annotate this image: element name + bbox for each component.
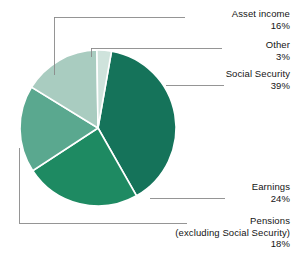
pie-label-pensions-value: 18% (175, 238, 290, 250)
pie-label-earnings-value: 24% (252, 193, 290, 205)
pie-label-other-text: Other (266, 39, 290, 51)
pie-label-asset-income-text: Asset income (232, 8, 290, 20)
pie-label-pensions: Pensions (excluding Social Security) 18% (175, 215, 290, 250)
pie-label-asset-income: Asset income 16% (232, 8, 290, 31)
pie-label-social-security: Social Security 39% (226, 68, 290, 91)
pie-label-other: Other 3% (266, 39, 290, 62)
pie-label-other-value: 3% (266, 51, 290, 63)
pie-label-earnings-text: Earnings (252, 181, 290, 193)
pie-label-pensions-sublabel: (excluding Social Security) (175, 227, 290, 239)
pie-slices (20, 50, 176, 206)
pie-label-social-security-value: 39% (226, 80, 290, 92)
pie-label-pensions-text: Pensions (175, 215, 290, 227)
pie-label-earnings: Earnings 24% (252, 181, 290, 204)
pie-label-asset-income-value: 16% (232, 20, 290, 32)
pie-label-social-security-text: Social Security (226, 68, 290, 80)
pie-chart-figure: Asset income 16% Other 3% Social Securit… (0, 0, 294, 256)
